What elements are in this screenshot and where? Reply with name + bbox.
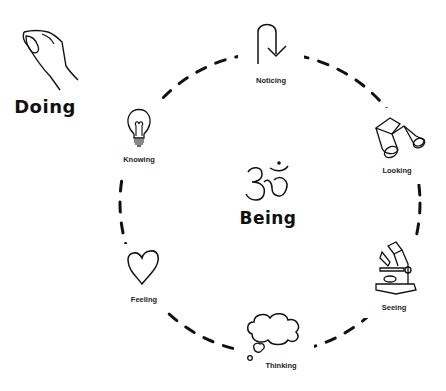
- diagram-canvas: Doing Being Noticing Looking Seeing: [0, 0, 446, 391]
- microscope-icon: [374, 240, 418, 296]
- cycle-label-looking: Looking: [382, 166, 411, 175]
- hand-icon: [18, 26, 82, 96]
- cycle-label-seeing: Seeing: [382, 303, 407, 312]
- heart-icon: [126, 248, 162, 286]
- cycle-label-noticing: Noticing: [256, 76, 286, 85]
- u-turn-arrow-icon: [254, 20, 290, 66]
- center-label: Being: [239, 208, 296, 228]
- binoculars-icon: [370, 114, 426, 162]
- cycle-label-feeling: Feeling: [131, 295, 157, 304]
- thought-cloud-icon: [244, 310, 304, 362]
- cycle-label-knowing: Knowing: [123, 155, 155, 164]
- cycle-label-thinking: Thinking: [265, 361, 296, 370]
- lightbulb-icon: [126, 106, 152, 150]
- outer-label: Doing: [14, 96, 76, 117]
- om-symbol-icon: [242, 160, 294, 206]
